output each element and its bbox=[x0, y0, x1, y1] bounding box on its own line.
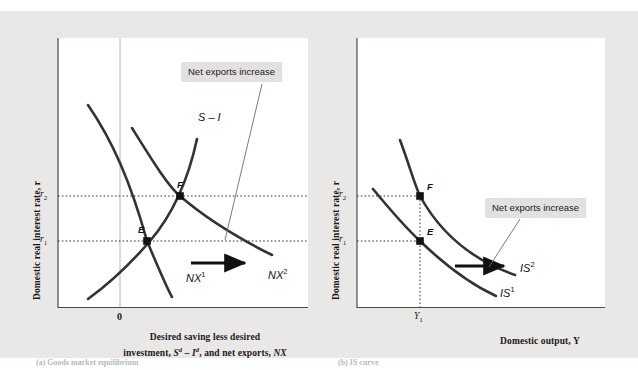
curve-label-nx1: NX1 bbox=[186, 270, 205, 284]
callout-leader-right bbox=[489, 219, 520, 267]
right-tick-r1: r1 bbox=[339, 234, 346, 247]
left-x-axis-title: Desired saving less desired investment, … bbox=[80, 332, 330, 359]
nx-term: NX bbox=[273, 348, 286, 358]
left-panel-gridlines bbox=[58, 196, 308, 241]
left-tick-r2: r2 bbox=[40, 189, 47, 202]
chart-vector-layer bbox=[0, 0, 638, 370]
point-label-e-right: E bbox=[427, 226, 433, 237]
right-tick-r2: r2 bbox=[339, 189, 346, 202]
figure-container: Domestic real interest rate, r r2 r1 0 D… bbox=[0, 0, 638, 370]
curve-nx1 bbox=[88, 105, 172, 297]
caption-left: (a) Goods market equilibrium bbox=[36, 358, 138, 367]
curve-is1 bbox=[373, 189, 496, 296]
point-marker-f-left bbox=[176, 192, 184, 200]
curve-label-is2: IS2 bbox=[520, 260, 535, 274]
figure-caption-row: (a) Goods market equilibrium (b) IS curv… bbox=[0, 358, 638, 370]
curve-s-minus-i bbox=[88, 139, 197, 299]
caption-right: (b) IS curve bbox=[338, 358, 378, 367]
point-label-f-right: F bbox=[427, 181, 433, 192]
right-tick-y1: Y1 bbox=[414, 311, 423, 324]
right-x-axis-title: Domestic output, Y bbox=[455, 336, 625, 348]
left-tick-r1: r1 bbox=[40, 234, 47, 247]
right-panel-gridlines bbox=[357, 196, 420, 307]
sd-term: Sd bbox=[173, 348, 182, 358]
point-marker-f-right bbox=[416, 192, 424, 200]
curve-label-nx2: NX2 bbox=[268, 267, 287, 281]
curve-label-s-minus-i: S – I bbox=[198, 111, 221, 123]
point-label-f-left: F bbox=[177, 179, 183, 190]
point-marker-e-right bbox=[416, 237, 424, 245]
point-label-e-left: E bbox=[138, 224, 144, 235]
left-x-axis-title-line1: Desired saving less desired bbox=[80, 332, 330, 344]
callout-left-net-exports-increase: Net exports increase bbox=[181, 62, 282, 82]
left-x-axis-title-line2: investment, Sd – Id, and net exports, NX bbox=[80, 344, 330, 360]
left-tick-zero: 0 bbox=[117, 311, 122, 322]
curve-label-is1: IS1 bbox=[500, 285, 515, 299]
callout-right-net-exports-increase: Net exports increase bbox=[485, 198, 586, 218]
point-marker-e-left bbox=[143, 237, 151, 245]
callout-leader-left bbox=[225, 84, 262, 240]
